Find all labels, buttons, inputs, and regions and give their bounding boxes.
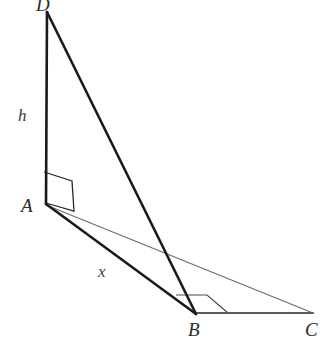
vertex-label-C: C (305, 320, 318, 339)
vertex-label-D: D (36, 0, 50, 14)
vertex-label-A: A (21, 196, 33, 215)
geometry-diagram: D A B C h x (0, 0, 327, 355)
segment-DB (47, 12, 196, 314)
segment-AB (46, 204, 196, 314)
vertex-label-B: B (188, 320, 200, 339)
measure-label-height: h (18, 107, 27, 124)
measure-label-distance: x (98, 263, 106, 280)
segment-AC (46, 205, 313, 313)
figure-svg (0, 0, 327, 355)
segment-DA (46, 12, 47, 204)
